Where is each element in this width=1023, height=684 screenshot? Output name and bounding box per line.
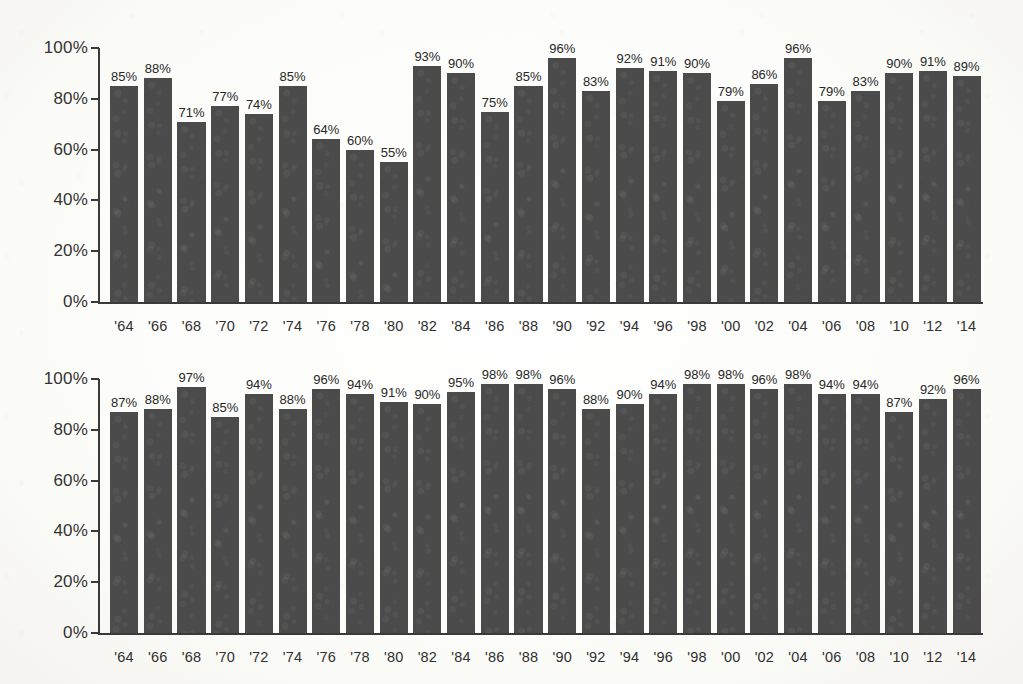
bar-slot: 83% (582, 48, 610, 302)
y-axis-tick (91, 199, 99, 201)
bar-slot: 92% (919, 379, 947, 633)
y-tick-label: 40% (53, 190, 88, 210)
y-axis-tick (91, 581, 99, 583)
y-tick-label: 100% (44, 369, 88, 389)
bar (683, 384, 711, 633)
x-tick-label: '76 (317, 649, 337, 665)
bar (144, 409, 172, 633)
x-tick-label: '08 (856, 649, 876, 665)
bar-slot: 94% (851, 379, 879, 633)
bar-slot: 93% (413, 48, 441, 302)
x-tick-label: '98 (687, 649, 707, 665)
bar-value-label: 88% (145, 392, 171, 407)
bar-slot: 85% (279, 48, 307, 302)
bar-value-label: 79% (819, 84, 845, 99)
y-axis-tick (91, 429, 99, 431)
bar-value-label: 96% (549, 41, 575, 56)
bar (616, 404, 644, 633)
bar-slot: 96% (548, 48, 576, 302)
y-tick-label: 80% (53, 420, 88, 440)
bar (616, 68, 644, 302)
bar-slot: 71% (177, 48, 205, 302)
bar-slot: 96% (784, 48, 812, 302)
bar-slot: 85% (110, 48, 138, 302)
x-tick-label: '70 (215, 649, 235, 665)
bar (649, 71, 677, 302)
bar (514, 86, 542, 302)
bar-value-label: 85% (212, 400, 238, 415)
bar-slot: 97% (177, 379, 205, 633)
scanned-figure-page: 0%20%40%60%80%100% 85%88%71%77%74%85%64%… (0, 0, 1023, 684)
bar-value-label: 83% (852, 74, 878, 89)
bar-slot: 79% (818, 48, 846, 302)
bar-value-label: 91% (381, 385, 407, 400)
bar-value-label: 85% (515, 69, 541, 84)
bar-slot: 98% (784, 379, 812, 633)
y-tick-label: 100% (44, 38, 88, 58)
y-tick-label: 80% (53, 89, 88, 109)
bar (380, 162, 408, 302)
bar-slot: 77% (211, 48, 239, 302)
bar-value-label: 96% (549, 372, 575, 387)
y-tick-label: 0% (63, 292, 88, 312)
bar-value-label: 88% (583, 392, 609, 407)
bar-value-label: 77% (212, 89, 238, 104)
bar-value-label: 71% (178, 105, 204, 120)
x-tick-label: '78 (350, 649, 370, 665)
bar-value-label: 94% (246, 377, 272, 392)
bar (481, 112, 509, 303)
bar-value-label: 90% (886, 56, 912, 71)
bar (245, 394, 273, 633)
bar-value-label: 75% (482, 95, 508, 110)
bar-slot: 95% (447, 379, 475, 633)
bar (144, 78, 172, 302)
bar-value-label: 97% (178, 370, 204, 385)
bar-value-label: 92% (920, 382, 946, 397)
bar-slot: 94% (649, 379, 677, 633)
bar-value-label: 91% (650, 54, 676, 69)
bar (211, 417, 239, 633)
bar-slot: 96% (312, 379, 340, 633)
bar-value-label: 87% (111, 395, 137, 410)
y-axis-tick (91, 480, 99, 482)
bar-slot: 88% (582, 379, 610, 633)
y-tick-label: 20% (53, 241, 88, 261)
bar-value-label: 55% (381, 145, 407, 160)
bar-value-label: 88% (280, 392, 306, 407)
bar-slot: 88% (279, 379, 307, 633)
bar (245, 114, 273, 302)
bar-slot: 98% (514, 379, 542, 633)
y-axis-tick (91, 149, 99, 151)
bar (582, 409, 610, 633)
y-axis-spine-bottom (98, 379, 100, 634)
bar-slot: 98% (683, 379, 711, 633)
x-tick-label: '68 (182, 649, 202, 665)
bar (548, 389, 576, 633)
bar-slot: 89% (953, 48, 981, 302)
bar-value-label: 87% (886, 395, 912, 410)
bar (514, 384, 542, 633)
bar-slot: 96% (953, 379, 981, 633)
bar-value-label: 89% (954, 59, 980, 74)
bar-value-label: 98% (785, 367, 811, 382)
bar-slot: 94% (346, 379, 374, 633)
bar-value-label: 94% (852, 377, 878, 392)
plot-area-top: 0%20%40%60%80%100% 85%88%71%77%74%85%64%… (0, 0, 1023, 340)
bar-slot: 85% (211, 379, 239, 633)
bar-value-label: 64% (313, 122, 339, 137)
bar-value-label: 96% (954, 372, 980, 387)
bar-slot: 96% (548, 379, 576, 633)
bar-value-label: 93% (414, 49, 440, 64)
bar-slot: 85% (514, 48, 542, 302)
bar (346, 150, 374, 302)
bar-value-label: 98% (482, 367, 508, 382)
x-tick-label: '06 (822, 649, 842, 665)
x-tick-label: '74 (283, 649, 303, 665)
bar-slot: 90% (683, 48, 711, 302)
x-tick-label: '02 (755, 649, 775, 665)
bar (279, 86, 307, 302)
bar (177, 122, 205, 302)
bar-slot: 87% (885, 379, 913, 633)
bar (447, 73, 475, 302)
bar-slot: 90% (413, 379, 441, 633)
